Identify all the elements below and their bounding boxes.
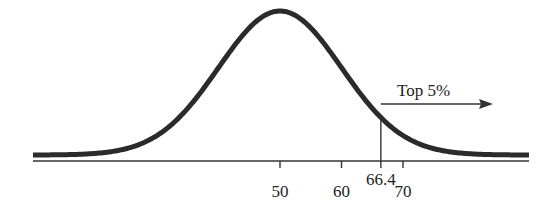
normal-distribution-figure: 506066.470 Top 5%	[0, 0, 559, 216]
normal-curve	[33, 11, 529, 155]
x-tick-label: 66.4	[366, 170, 396, 189]
chart-canvas: 506066.470 Top 5%	[0, 0, 559, 216]
x-tick-label: 60	[333, 182, 350, 201]
x-tick-label: 50	[272, 182, 289, 201]
top-5-label: Top 5%	[397, 81, 450, 100]
x-axis-ticks: 506066.470	[272, 161, 412, 201]
arrow-head-icon	[479, 99, 493, 109]
x-tick-label: 70	[395, 182, 412, 201]
